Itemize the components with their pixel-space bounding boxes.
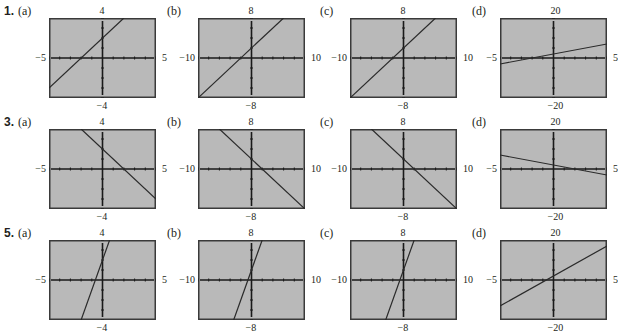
ymax-label: 4 xyxy=(100,227,105,238)
graph-panel xyxy=(198,240,305,320)
graph-screen xyxy=(49,18,156,98)
ymax-label: 8 xyxy=(401,227,406,238)
ymax-label: 4 xyxy=(100,5,105,16)
xmin-label: −10 xyxy=(179,52,195,63)
problem-number: 1. xyxy=(4,4,14,18)
problem-number: 3. xyxy=(4,115,14,129)
xmax-label: 5 xyxy=(162,163,167,174)
ymax-label: 8 xyxy=(249,116,254,127)
part-label: (a) xyxy=(18,115,31,130)
problem-number: 5. xyxy=(4,226,14,240)
graph-panel xyxy=(49,240,156,320)
graph-panel xyxy=(49,129,156,209)
part-label: (d) xyxy=(472,4,486,19)
xmax-label: 5 xyxy=(162,274,167,285)
xmin-label: −10 xyxy=(179,274,195,285)
xmax-label: 10 xyxy=(463,274,473,285)
xmin-label: −5 xyxy=(486,52,497,63)
graph-panel xyxy=(350,240,457,320)
graph-screen xyxy=(500,240,607,320)
ymax-label: 20 xyxy=(551,5,561,16)
graph-panel xyxy=(198,18,305,98)
xmin-label: −10 xyxy=(179,163,195,174)
ymax-label: 8 xyxy=(401,116,406,127)
xmax-label: 5 xyxy=(613,274,618,285)
graph-panel xyxy=(198,129,305,209)
ymin-label: −8 xyxy=(246,100,257,111)
part-label: (b) xyxy=(167,115,181,130)
xmax-label: 10 xyxy=(311,52,321,63)
ymax-label: 8 xyxy=(249,227,254,238)
ymax-label: 8 xyxy=(249,5,254,16)
ymin-label: −4 xyxy=(97,322,108,333)
xmax-label: 10 xyxy=(463,163,473,174)
graph-screen xyxy=(198,129,305,209)
xmin-label: −10 xyxy=(331,274,347,285)
xmax-label: 5 xyxy=(613,52,618,63)
xmax-label: 10 xyxy=(311,163,321,174)
part-label: (c) xyxy=(320,226,333,241)
part-label: (a) xyxy=(18,226,31,241)
graph-panel xyxy=(500,18,607,98)
xmax-label: 10 xyxy=(463,52,473,63)
xmin-label: −5 xyxy=(35,52,46,63)
xmin-label: −5 xyxy=(35,163,46,174)
ymin-label: −8 xyxy=(398,322,409,333)
graph-screen xyxy=(350,240,457,320)
ymax-label: 8 xyxy=(401,5,406,16)
part-label: (a) xyxy=(18,4,31,19)
part-label: (b) xyxy=(167,226,181,241)
ymin-label: −4 xyxy=(97,100,108,111)
graph-screen xyxy=(500,129,607,209)
ymin-label: −8 xyxy=(398,100,409,111)
xmin-label: −10 xyxy=(331,163,347,174)
ymin-label: −8 xyxy=(246,211,257,222)
graph-screen xyxy=(49,240,156,320)
part-label: (c) xyxy=(320,4,333,19)
ymax-label: 20 xyxy=(551,116,561,127)
graph-screen xyxy=(198,240,305,320)
ymin-label: −20 xyxy=(548,100,564,111)
graph-panel xyxy=(49,18,156,98)
xmin-label: −5 xyxy=(35,274,46,285)
graph-screen xyxy=(49,129,156,209)
xmax-label: 10 xyxy=(311,274,321,285)
part-label: (c) xyxy=(320,115,333,130)
ymin-label: −4 xyxy=(97,211,108,222)
graph-screen xyxy=(500,18,607,98)
ymin-label: −20 xyxy=(548,211,564,222)
xmin-label: −5 xyxy=(486,274,497,285)
graph-screen xyxy=(350,18,457,98)
graph-panel xyxy=(350,129,457,209)
ymax-label: 4 xyxy=(100,116,105,127)
xmax-label: 5 xyxy=(613,163,618,174)
part-label: (d) xyxy=(472,226,486,241)
graph-screen xyxy=(350,129,457,209)
xmin-label: −5 xyxy=(486,163,497,174)
ymin-label: −20 xyxy=(548,322,564,333)
ymax-label: 20 xyxy=(551,227,561,238)
xmin-label: −10 xyxy=(331,52,347,63)
xmax-label: 5 xyxy=(162,52,167,63)
part-label: (d) xyxy=(472,115,486,130)
graph-panel xyxy=(500,129,607,209)
part-label: (b) xyxy=(167,4,181,19)
graph-panel xyxy=(500,240,607,320)
graph-screen xyxy=(198,18,305,98)
ymin-label: −8 xyxy=(398,211,409,222)
graph-panel xyxy=(350,18,457,98)
ymin-label: −8 xyxy=(246,322,257,333)
